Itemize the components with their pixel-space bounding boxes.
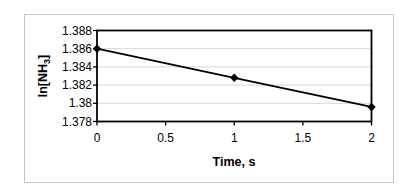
x-axis-title: Time, s (184, 155, 284, 169)
y-axis-title-subscript: 3 (42, 59, 52, 64)
x-tick-label: 1.5 (283, 131, 323, 145)
y-tick-label: 1.378 (56, 115, 92, 129)
y-tick-label: 1.388 (56, 24, 92, 38)
x-tick-label: 2 (352, 131, 392, 145)
y-tick-label: 1.386 (56, 42, 92, 56)
y-tick-label: 1.38 (56, 96, 92, 110)
x-tick-label: 1 (214, 131, 254, 145)
y-axis-title-main: ln[NH (36, 64, 50, 97)
x-tick-label: 0.5 (146, 131, 186, 145)
y-axis-title-end: ] (36, 55, 50, 59)
x-tick-label: 0 (77, 131, 117, 145)
y-tick-label: 1.384 (56, 60, 92, 74)
y-axis-title: ln[NH3] (36, 55, 53, 98)
line-chart: 1.3781.381.3821.3841.3861.388 00.511.52 … (0, 0, 409, 194)
y-tick-label: 1.382 (56, 78, 92, 92)
